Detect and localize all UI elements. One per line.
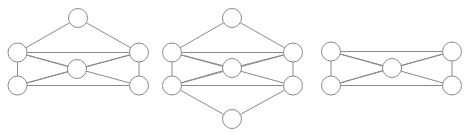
graph-1	[8, 9, 149, 96]
graph-node	[223, 9, 242, 28]
graph-node	[223, 59, 242, 78]
graph-node	[8, 43, 27, 62]
graph-3-nodes	[322, 42, 462, 95]
graph-edge	[180, 90, 223, 114]
graph-canvas	[0, 0, 472, 136]
graph-edge	[181, 71, 223, 83]
graph-node	[163, 43, 182, 62]
graph-edge	[27, 72, 68, 83]
graph-node	[223, 110, 242, 129]
graph-2	[163, 9, 303, 129]
graph-figure	[0, 0, 472, 136]
graph-node	[69, 9, 88, 28]
graph-node	[284, 43, 303, 62]
graph-node	[383, 59, 402, 78]
graph-node	[163, 76, 182, 95]
graph-node	[284, 76, 303, 95]
graph-node	[322, 76, 341, 95]
graph-node	[443, 42, 462, 61]
graph-edge	[26, 23, 70, 48]
graph-3	[322, 42, 462, 95]
graph-edge	[180, 23, 224, 48]
graph-edge	[240, 90, 284, 114]
graph-edge	[340, 71, 383, 83]
graph-node	[443, 76, 462, 95]
graph-edge	[240, 23, 284, 48]
graph-node	[68, 60, 87, 79]
graph-node	[130, 43, 149, 62]
graph-2-nodes	[163, 9, 303, 129]
graph-node	[130, 76, 149, 95]
graph-node	[322, 42, 341, 61]
graph-edge	[86, 23, 130, 48]
graph-node	[8, 76, 27, 95]
